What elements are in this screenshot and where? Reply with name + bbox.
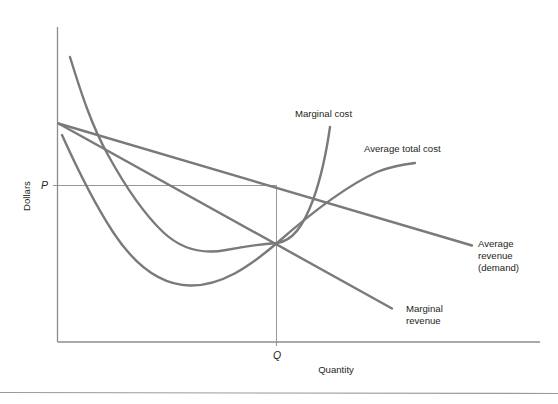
monopoly-graph-svg: P Q Dollars Quantity Marginal cost Avera… — [0, 0, 558, 404]
marginal-revenue-label-line1: Marginal — [406, 303, 443, 314]
average-revenue-curve — [59, 124, 473, 246]
economics-chart-figure: P Q Dollars Quantity Marginal cost Avera… — [0, 0, 558, 404]
marginal-revenue-curve — [59, 124, 393, 309]
price-marker-label: P — [41, 179, 48, 191]
average-revenue-label-line3: (demand) — [478, 262, 519, 273]
average-total-cost-label: Average total cost — [364, 143, 441, 154]
page-divider-rule — [0, 393, 558, 394]
x-axis-label: Quantity — [318, 364, 354, 375]
quantity-marker-label: Q — [273, 349, 281, 361]
marginal-cost-curve — [70, 57, 330, 252]
marginal-revenue-label-line2: revenue — [406, 315, 441, 326]
y-axis-label: Dollars — [21, 181, 32, 211]
average-revenue-label-line2: revenue — [478, 250, 513, 261]
average-total-cost-curve — [62, 135, 415, 286]
marginal-cost-label: Marginal cost — [295, 108, 352, 119]
average-revenue-label-line1: Average — [478, 238, 514, 249]
